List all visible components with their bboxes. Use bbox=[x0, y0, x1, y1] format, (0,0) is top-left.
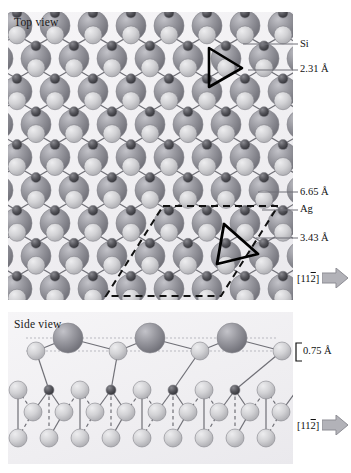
label-si-si-distance: 2.31 Å bbox=[300, 63, 329, 74]
direction-bracket-open-side: [11 bbox=[297, 420, 311, 431]
buckling-bracket-icon bbox=[294, 342, 303, 362]
direction-label-top: [112] bbox=[297, 273, 319, 284]
label-ag-ag-distance: 3.43 Å bbox=[300, 232, 329, 243]
label-buckling-distance: 0.75 Å bbox=[303, 345, 332, 356]
direction-bracket-close: ] bbox=[316, 273, 320, 284]
direction-bracket-close-side: ] bbox=[316, 420, 320, 431]
direction-arrow-top-icon bbox=[322, 268, 348, 288]
direction-label-side: [112] bbox=[297, 420, 319, 431]
label-leader-lines bbox=[0, 0, 351, 473]
direction-bracket-open: [11 bbox=[297, 273, 311, 284]
label-si-species: Si bbox=[300, 38, 309, 49]
label-ag-species: Ag bbox=[300, 203, 313, 214]
figure-root: Top view Si 2.31 Å 6.65 Å Ag 3.43 Å [112… bbox=[0, 0, 351, 473]
label-unit-cell-distance: 6.65 Å bbox=[300, 186, 329, 197]
direction-arrow-side-icon bbox=[322, 415, 348, 435]
